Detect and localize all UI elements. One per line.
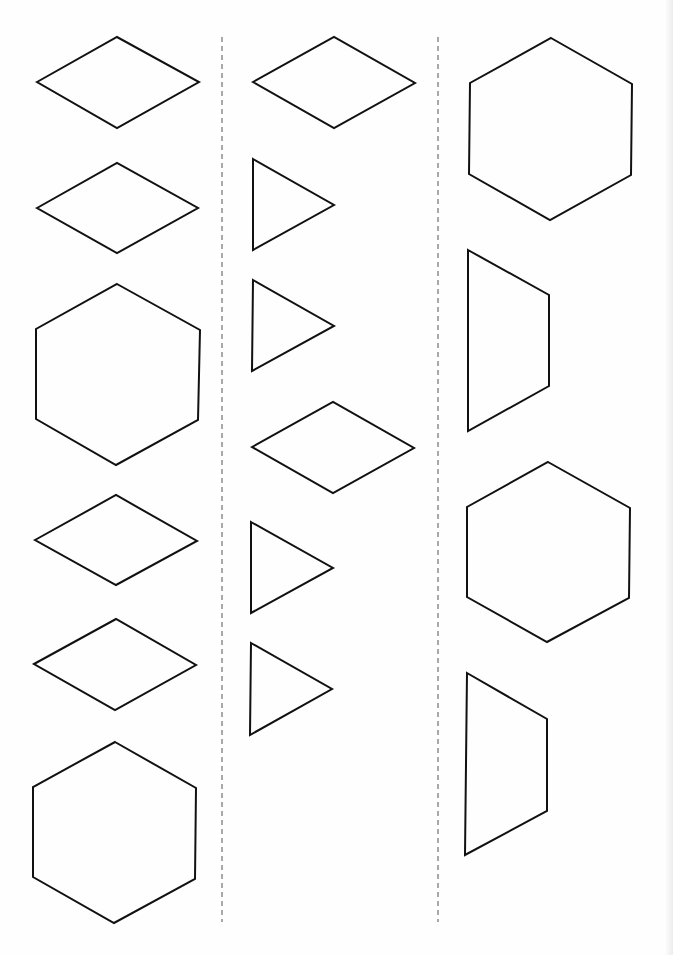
hexagon-shape (36, 284, 200, 465)
worksheet-page (0, 0, 673, 955)
rhombus-shape (34, 619, 196, 710)
hexagon-shape (467, 462, 630, 642)
triangle-shape (251, 522, 333, 613)
hexagon-shape (469, 38, 632, 220)
middle-column (250, 37, 415, 735)
rhombus-shape (253, 37, 415, 128)
shape-columns (33, 37, 632, 923)
rhombus-shape (35, 495, 197, 585)
right-column (465, 38, 632, 855)
column-dividers (222, 37, 438, 922)
triangle-shape (252, 280, 334, 371)
triangle-shape (250, 643, 332, 735)
rhombus-shape (37, 37, 199, 128)
left-column (33, 37, 200, 923)
trapezoid-shape (465, 673, 547, 855)
trapezoid-shape (468, 250, 549, 431)
hexagon-shape (33, 742, 196, 923)
rhombus-shape (37, 163, 198, 253)
pattern-block-shapes (0, 0, 673, 955)
triangle-shape (253, 159, 334, 250)
rhombus-shape (252, 402, 414, 493)
